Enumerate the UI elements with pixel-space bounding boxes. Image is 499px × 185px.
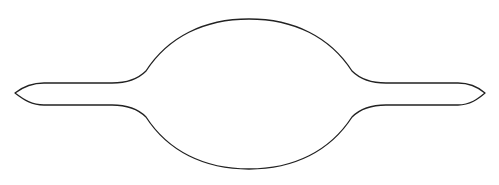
shape-outline-svg xyxy=(0,0,499,185)
diagram-canvas xyxy=(0,0,499,185)
spindle-shape-outline xyxy=(15,19,485,169)
